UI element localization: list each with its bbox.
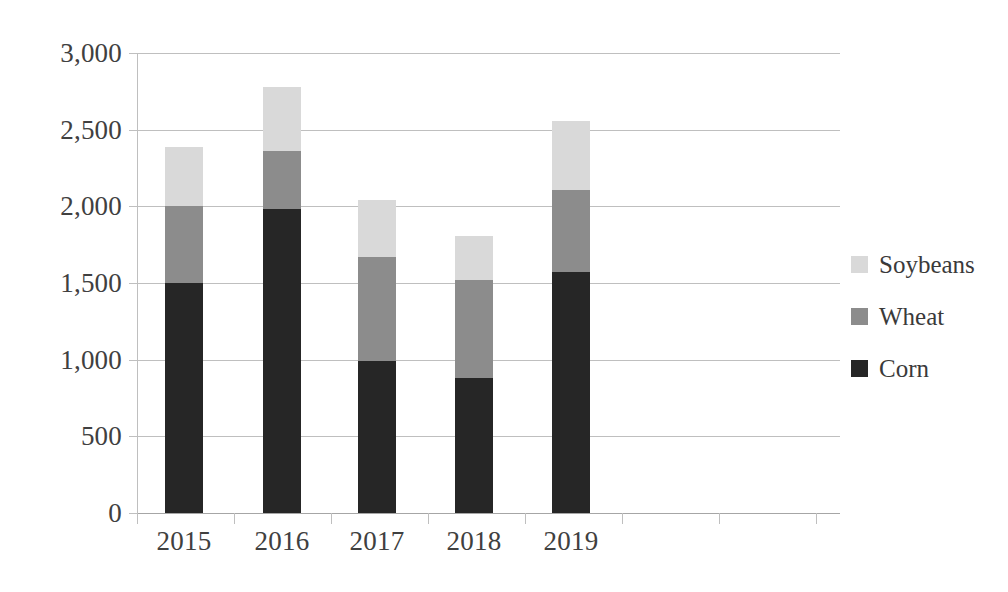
bar-segment-corn-2018[interactable]: [455, 378, 493, 513]
bar-segment-wheat-2016[interactable]: [263, 151, 301, 209]
y-axis-label-1000: 1,000: [2, 347, 122, 374]
stacked-bar-chart: 3,000 2,500 2,000 1,500 1,000 500 0: [0, 0, 1008, 592]
y-axis-label-3000: 3,000: [2, 40, 122, 67]
bar-group-2015[interactable]: [165, 147, 203, 514]
y-tick-2500: [129, 130, 137, 131]
bar-segment-corn-2017[interactable]: [358, 361, 396, 513]
legend-swatch-soybeans-icon: [851, 256, 868, 273]
legend-item-soybeans[interactable]: Soybeans: [851, 238, 1001, 290]
bar-segment-wheat-2015[interactable]: [165, 206, 203, 283]
bar-segment-soybeans-2015[interactable]: [165, 147, 203, 207]
legend-label-soybeans: Soybeans: [879, 252, 975, 277]
x-tick-1: [234, 513, 235, 524]
x-tick-6: [719, 513, 720, 524]
bar-segment-wheat-2017[interactable]: [358, 257, 396, 361]
y-tick-1000: [129, 360, 137, 361]
bar-group-2016[interactable]: [263, 87, 301, 513]
y-tick-500: [129, 436, 137, 437]
y-axis-label-1500: 1,500: [2, 270, 122, 297]
bar-segment-wheat-2018[interactable]: [455, 280, 493, 378]
x-tick-3: [428, 513, 429, 524]
y-tick-1500: [129, 283, 137, 284]
y-axis-label-500: 500: [2, 423, 122, 450]
gridline-baseline-0: [137, 513, 840, 514]
x-tick-4: [525, 513, 526, 524]
y-tick-3000: [129, 53, 137, 54]
bar-segment-corn-2015[interactable]: [165, 283, 203, 513]
x-tick-0: [137, 513, 138, 524]
legend-label-wheat: Wheat: [879, 304, 944, 329]
legend-item-corn[interactable]: Corn: [851, 342, 1001, 394]
bars-layer: [137, 53, 840, 513]
x-tick-7: [816, 513, 817, 524]
bar-segment-soybeans-2018[interactable]: [455, 236, 493, 281]
y-tick-0: [129, 513, 137, 514]
bar-segment-soybeans-2017[interactable]: [358, 200, 396, 257]
bar-segment-soybeans-2019[interactable]: [552, 121, 590, 190]
bar-group-2018[interactable]: [455, 236, 493, 514]
y-axis-label-2500: 2,500: [2, 117, 122, 144]
bar-segment-wheat-2019[interactable]: [552, 190, 590, 273]
legend-item-wheat[interactable]: Wheat: [851, 290, 1001, 342]
bar-segment-corn-2019[interactable]: [552, 272, 590, 513]
x-axis-label-2019: 2019: [511, 528, 631, 555]
legend-label-corn: Corn: [879, 356, 929, 381]
y-axis-labels: 3,000 2,500 2,000 1,500 1,000 500 0: [0, 0, 122, 592]
bar-group-2019[interactable]: [552, 121, 590, 514]
bar-segment-soybeans-2016[interactable]: [263, 87, 301, 151]
y-axis-label-0: 0: [2, 500, 122, 527]
y-axis-label-2000: 2,000: [2, 193, 122, 220]
x-tick-5: [622, 513, 623, 524]
y-tick-2000: [129, 206, 137, 207]
bar-group-2017[interactable]: [358, 200, 396, 513]
x-tick-2: [331, 513, 332, 524]
legend-swatch-corn-icon: [851, 360, 868, 377]
chart-legend: Soybeans Wheat Corn: [851, 238, 1001, 394]
bar-segment-corn-2016[interactable]: [263, 209, 301, 513]
legend-swatch-wheat-icon: [851, 308, 868, 325]
